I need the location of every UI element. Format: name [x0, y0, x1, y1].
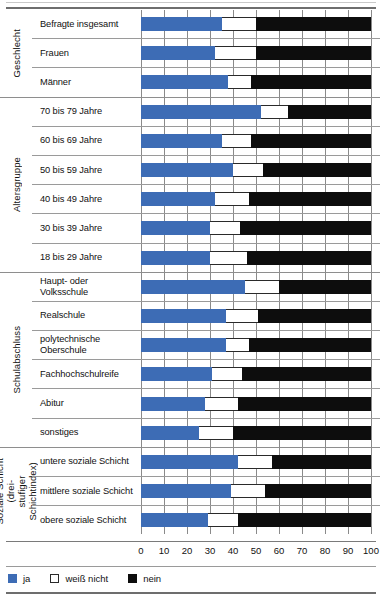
gridline [371, 244, 372, 272]
gridline [371, 331, 372, 359]
bar-segment-nein [265, 484, 371, 498]
stacked-bar [141, 46, 371, 60]
row-label: Fachhochschulreife [40, 360, 138, 388]
bar-segment-nein [288, 105, 371, 119]
legend-item[interactable]: weiß nicht [50, 573, 108, 584]
stacked-bar [141, 251, 371, 265]
bar-segment-ja [141, 455, 238, 469]
gridline [371, 506, 372, 534]
stacked-bar [141, 134, 371, 148]
bar-segment-ja [141, 105, 261, 119]
legend-bottom-rule [6, 592, 376, 594]
bar-track [141, 39, 371, 67]
bar-segment-weiss-nicht [238, 455, 273, 469]
row-label: 50 bis 59 Jahre [40, 156, 138, 184]
gridline [371, 68, 372, 96]
x-axis-tick-label: 80 [320, 545, 331, 556]
stacked-bar [141, 163, 371, 177]
bar-segment-nein [238, 513, 371, 527]
legend-swatch-icon [128, 574, 137, 583]
bar-segment-ja [141, 75, 228, 89]
row-label: 70 bis 79 Jahre [40, 98, 138, 126]
x-axis-tick-label: 60 [274, 545, 285, 556]
group-axis-label-text: Schulabschluss [11, 326, 22, 393]
plot-area: GeschlechtBefragte insgesamtFrauenMänner… [0, 10, 380, 541]
bar-segment-nein [251, 75, 371, 89]
bar-segment-ja [141, 426, 199, 440]
gridline [371, 389, 372, 417]
legend: jaweiß nichtnein [0, 569, 380, 587]
x-axis: 0102030405060708090100 [0, 541, 380, 563]
bar-segment-ja [141, 367, 212, 381]
bar-segment-ja [141, 46, 215, 60]
bar-segment-weiss-nicht [222, 134, 252, 148]
category-groups: GeschlechtBefragte insgesamtFrauenMänner… [0, 10, 380, 534]
legend-item[interactable]: nein [128, 573, 161, 584]
group-axis-label-text: Altersgruppe [11, 157, 22, 212]
bar-segment-nein [272, 455, 371, 469]
chart-row: Realschule [32, 301, 380, 330]
bar-track [141, 10, 371, 38]
chart-row: sonstiges [32, 418, 380, 447]
chart-row: Frauen [32, 38, 380, 67]
bar-track [141, 156, 371, 184]
x-axis-tick-label: 50 [251, 545, 262, 556]
row-label: sonstiges [40, 419, 138, 447]
category-group: Altersgruppe70 bis 79 Jahre60 bis 69 Jah… [0, 97, 380, 272]
bar-track [141, 506, 371, 534]
gridline [371, 98, 372, 126]
row-label: Frauen [40, 39, 138, 67]
stacked-bar [141, 105, 371, 119]
stacked-bar [141, 455, 371, 469]
row-label: untere soziale Schicht [40, 448, 138, 476]
row-label: Realschule [40, 302, 138, 330]
bar-segment-weiss-nicht [261, 105, 289, 119]
gridline [371, 448, 372, 476]
bar-track [141, 360, 371, 388]
chart-row: 40 bis 49 Jahre [32, 184, 380, 213]
row-label: polytechnische Oberschule [40, 331, 138, 359]
bar-track [141, 419, 371, 447]
gridline [371, 127, 372, 155]
bar-segment-nein [256, 17, 371, 31]
legend-label: weiß nicht [65, 573, 108, 584]
group-rows: untere soziale Schichtmittlere soziale S… [32, 448, 380, 535]
group-axis-label: Geschlecht [0, 10, 32, 97]
row-label: 30 bis 39 Jahre [40, 214, 138, 242]
bar-segment-nein [242, 367, 371, 381]
bar-segment-nein [247, 251, 371, 265]
x-axis-tick-label: 90 [343, 545, 354, 556]
x-axis-line [6, 541, 376, 542]
gridline [371, 156, 372, 184]
bar-segment-nein [233, 426, 371, 440]
chart-row: Fachhochschulreife [32, 359, 380, 388]
gridline [371, 10, 372, 38]
legend-top-rule [6, 566, 376, 567]
bar-segment-weiss-nicht [210, 221, 240, 235]
bar-segment-weiss-nicht [231, 484, 266, 498]
stacked-bar [141, 75, 371, 89]
group-axis-label-text: Geschlecht [11, 29, 22, 78]
stacked-bar [141, 513, 371, 527]
category-group: Soziale Schicht (drei- stufiger Schichti… [0, 447, 380, 535]
bar-segment-ja [141, 280, 245, 294]
legend-swatch-icon [8, 574, 17, 583]
bar-segment-ja [141, 513, 208, 527]
bar-track [141, 302, 371, 330]
gridline [371, 419, 372, 447]
chart-row: polytechnische Oberschule [32, 330, 380, 359]
bar-segment-ja [141, 251, 210, 265]
gridline [371, 214, 372, 242]
bar-segment-weiss-nicht [245, 280, 280, 294]
bar-track [141, 244, 371, 272]
bar-segment-nein [279, 280, 371, 294]
group-axis-label: Altersgruppe [0, 98, 32, 272]
x-axis-tick-label: 10 [159, 545, 170, 556]
chart-row: 70 bis 79 Jahre [32, 98, 380, 126]
legend-item[interactable]: ja [8, 573, 30, 584]
stacked-bar [141, 17, 371, 31]
bar-track [141, 331, 371, 359]
row-label: 60 bis 69 Jahre [40, 127, 138, 155]
bar-track [141, 68, 371, 96]
chart-row: untere soziale Schicht [32, 448, 380, 476]
